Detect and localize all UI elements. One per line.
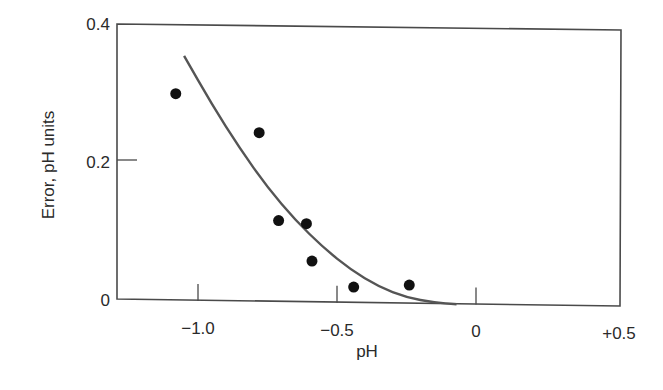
data-point <box>404 280 415 291</box>
x-tick-labels: −1.0−0.50+0.5 <box>181 319 636 343</box>
data-point <box>254 127 265 138</box>
x-tick-label: 0 <box>471 322 480 341</box>
x-tick-label: −0.5 <box>320 321 354 340</box>
data-point <box>273 215 284 226</box>
chart-canvas: −1.0−0.50+0.5 00.20.4 pH Error, pH units <box>0 0 663 390</box>
x-axis-label: pH <box>356 342 378 361</box>
data-point <box>348 282 359 293</box>
fitted-curve <box>184 56 456 304</box>
plot-frame <box>117 24 621 306</box>
y-tick-label: 0 <box>101 291 110 310</box>
data-point <box>306 256 317 267</box>
data-point <box>170 88 181 99</box>
data-point <box>301 218 312 229</box>
y-tick-labels: 00.20.4 <box>86 15 110 310</box>
x-tick-label: +0.5 <box>602 324 636 343</box>
y-axis-label: Error, pH units <box>39 111 58 220</box>
y-tick-label: 0.2 <box>86 153 110 172</box>
y-tick-label: 0.4 <box>86 15 110 34</box>
x-tick-label: −1.0 <box>181 319 215 338</box>
data-points <box>170 88 415 292</box>
